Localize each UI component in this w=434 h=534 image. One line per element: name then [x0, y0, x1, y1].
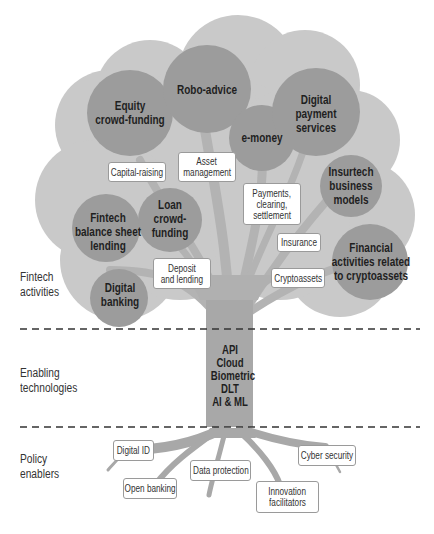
category-payments-clearing-settlement: Payments, clearing, settlement: [243, 183, 301, 225]
box-text: Open banking: [124, 483, 175, 494]
layer-label-enabling-technologies: Enabling technologies: [20, 366, 77, 396]
circle-text: crowd-funding: [95, 113, 164, 127]
circle-equity-crowd-funding: Equity crowd-funding: [95, 99, 164, 127]
circle-text: activities related: [332, 255, 410, 269]
box-text: clearing,: [256, 199, 287, 210]
circle-text: Fintech: [75, 211, 141, 225]
box-text: management: [183, 167, 231, 178]
box-text: and lending: [161, 274, 203, 285]
tech-item: AI & ML: [211, 396, 249, 409]
circle-robo-advice: Robo-advice: [177, 83, 237, 97]
layer-label-line: Policy: [20, 452, 59, 467]
layer-label-line: technologies: [20, 381, 77, 396]
enabling-technologies-list: API Cloud Biometric DLT AI & ML: [206, 344, 254, 409]
circle-text: Digital: [295, 93, 336, 107]
circle-text: crowd-: [152, 212, 189, 226]
layer-label-line: enablers: [20, 467, 59, 482]
category-cryptoassets: Cryptoassets: [271, 268, 325, 288]
circle-text: models: [328, 193, 373, 207]
box-text: Payments,: [253, 188, 292, 199]
circle-financial-activities-cryptoassets: Financial activities related to cryptoas…: [332, 241, 410, 283]
category-capital-raising: Capital-raising: [108, 162, 166, 182]
box-text: Digital ID: [117, 445, 150, 456]
box-text: Insurance: [281, 237, 317, 248]
circle-digital-banking: Digital banking: [101, 281, 139, 309]
category-deposit-and-lending: Deposit and lending: [153, 258, 211, 289]
circle-text: Robo-advice: [177, 83, 237, 97]
circle-fintech-balance-sheet-lending: Fintech balance sheet lending: [75, 211, 141, 253]
layer-label-policy-enablers: Policy enablers: [20, 452, 59, 482]
circle-text: Loan: [152, 198, 189, 212]
circle-text: Insurtech: [328, 165, 373, 179]
circle-text: funding: [152, 226, 189, 240]
box-text: Cryptoassets: [274, 273, 322, 284]
box-text: settlement: [253, 210, 291, 221]
category-insurance: Insurance: [277, 233, 321, 252]
circle-loan-crowd-funding: Loan crowd- funding: [152, 198, 189, 240]
circle-text: Financial: [332, 241, 410, 255]
box-text: Asset: [197, 156, 218, 167]
circle-text: payment: [295, 107, 336, 121]
box-text: Cyber security: [301, 450, 353, 461]
layer-label-fintech-activities: Fintech activities: [20, 270, 59, 300]
policy-data-protection: Data protection: [190, 460, 251, 481]
circle-text: Equity: [95, 99, 164, 113]
circle-text: e-money: [241, 131, 282, 145]
circle-text: lending: [75, 239, 141, 253]
policy-cyber-security: Cyber security: [298, 445, 356, 466]
box-text: Data protection: [193, 465, 249, 476]
fintech-tree-diagram: Fintech activities Enabling technologies…: [0, 0, 434, 534]
box-text: facilitators: [269, 497, 306, 508]
circle-e-money: e-money: [241, 131, 282, 145]
circle-insurtech-business-models: Insurtech business models: [328, 165, 373, 207]
circle-text: banking: [101, 295, 139, 309]
circle-text: balance sheet: [75, 225, 141, 239]
layer-label-line: activities: [20, 285, 59, 300]
circle-text: Digital: [101, 281, 139, 295]
circle-text: business: [328, 179, 373, 193]
policy-digital-id: Digital ID: [113, 440, 154, 461]
box-text: Innovation: [269, 486, 307, 497]
circle-text: to cryptoassets: [332, 269, 410, 283]
policy-open-banking: Open banking: [123, 478, 177, 499]
box-text: Capital-raising: [111, 167, 163, 178]
layer-label-line: Fintech: [20, 270, 59, 285]
policy-innovation-facilitators: Innovation facilitators: [256, 481, 319, 513]
category-asset-management: Asset management: [178, 152, 236, 182]
layer-label-line: Enabling: [20, 366, 77, 381]
circle-digital-payment-services: Digital payment services: [295, 93, 336, 135]
box-text: Deposit: [168, 263, 196, 274]
circle-text: services: [295, 121, 336, 135]
